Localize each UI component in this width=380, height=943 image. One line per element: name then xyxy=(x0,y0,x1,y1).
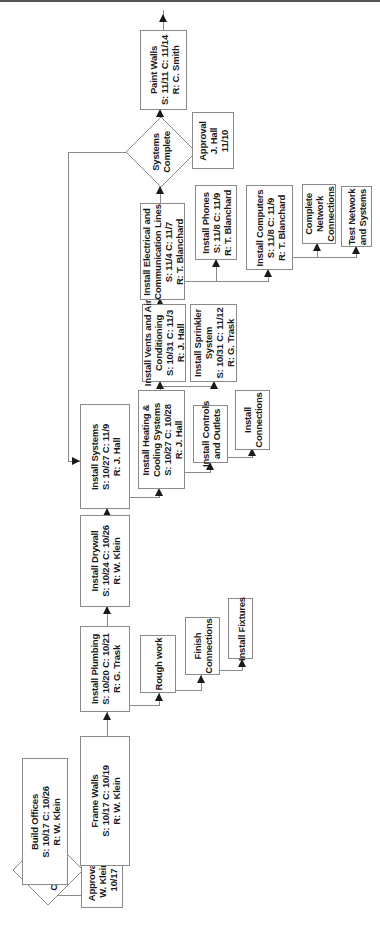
task-title: Install Systems xyxy=(89,423,100,489)
arrow-icon xyxy=(103,712,111,720)
connector xyxy=(185,281,269,282)
task-title: Connections xyxy=(203,618,214,673)
task-responsible: R: J. Hall xyxy=(175,300,186,386)
task-title: Install Computers xyxy=(253,189,264,266)
task-responsible: R: T. Blanchard xyxy=(174,204,185,299)
task-title: Finish xyxy=(192,618,203,673)
task-title: System xyxy=(203,307,214,378)
task-title: Install Phones xyxy=(200,189,211,255)
connector xyxy=(293,257,357,258)
task-title: Install xyxy=(242,392,253,447)
task-dates: S: 10/31 C: 11/12 xyxy=(214,307,225,378)
task-title: Complete xyxy=(303,186,314,241)
task-title: Install Sprinkler xyxy=(192,307,203,378)
task-dates: S: 11/8 C: 11/9 xyxy=(264,189,275,266)
task-responsible: R: C. Smith xyxy=(169,35,180,105)
approval-date: 11/10 xyxy=(219,121,230,161)
task-title: Install Electrical and xyxy=(141,204,152,299)
arrow-icon xyxy=(155,488,163,496)
task-title: Connections xyxy=(325,186,336,241)
connector xyxy=(130,497,160,498)
task-title: Connections xyxy=(253,392,264,447)
task-dates: S: 10/27 C: 10/28 xyxy=(162,402,173,476)
task-responsible: R: W. Klein xyxy=(51,786,62,858)
task-frame-walls: Frame Walls S: 10/17 C: 10/19 R: W. Klei… xyxy=(80,736,130,866)
connector xyxy=(160,386,215,387)
decision-label: Systems xyxy=(150,131,161,173)
task-title: Network xyxy=(314,186,325,241)
task-install-phones: Install Phones S: 11/8 C: 11/9 R: T. Bla… xyxy=(195,185,237,260)
arrow-icon xyxy=(103,606,111,614)
task-finish-connections: Finish Connections xyxy=(185,617,220,675)
task-responsible: R: G. Trask xyxy=(225,307,236,378)
task-install-systems: Install Systems S: 10/27 C: 11/9 R: J. H… xyxy=(80,404,130,509)
task-dates: S: 10/27 C: 11/9 xyxy=(100,423,111,489)
arrow-icon xyxy=(313,243,321,251)
decision-systems-complete: Systems Complete xyxy=(126,117,196,187)
task-dates: S: 10/17 C: 10/26 xyxy=(40,786,51,858)
task-title: and Systems xyxy=(357,188,368,245)
arrow-icon xyxy=(352,246,360,254)
arrow-icon xyxy=(156,109,164,117)
task-title: Install Plumbing xyxy=(89,633,100,705)
task-install-connections: Install Connections xyxy=(235,390,270,450)
task-rough-work: Rough work xyxy=(140,635,176,693)
connector xyxy=(228,457,253,458)
connector xyxy=(176,690,202,691)
decision-label: Complete xyxy=(161,131,172,173)
arrow-icon xyxy=(155,693,163,701)
task-install-sprinkler: Install Sprinkler System S: 10/31 C: 11/… xyxy=(190,304,237,382)
approval-systems: Approval J. Hall 11/10 xyxy=(192,112,234,169)
task-title: Install Vents and Air xyxy=(142,300,153,386)
task-responsible: R: J. Hall xyxy=(173,402,184,476)
connector xyxy=(220,670,243,671)
task-complete-network-connections: Complete Network Connections xyxy=(302,184,336,244)
arrow-icon xyxy=(210,381,218,389)
arrow-icon xyxy=(156,186,164,194)
task-install-electrical: Install Electrical and Communication Lin… xyxy=(140,203,185,300)
approval-name: J. Hall xyxy=(208,121,219,161)
task-title: Install Heating & xyxy=(140,402,151,476)
task-install-fixtures: Install Fixtures xyxy=(228,598,253,659)
task-title: Build Offices xyxy=(29,786,40,858)
task-title: Test Network xyxy=(346,188,357,245)
task-title: and Outlets xyxy=(211,401,222,467)
task-install-computers: Install Computers S: 11/8 C: 11/9 R: T. … xyxy=(246,185,293,270)
arrow-icon xyxy=(197,675,205,683)
task-responsible: R: T. Blanchard xyxy=(275,189,286,266)
task-test-network-systems: Test Network and Systems xyxy=(341,186,372,247)
task-responsible: R: G. Trask xyxy=(111,633,122,705)
task-title: Install Drywall xyxy=(89,525,100,597)
task-dates: S: 11/8 C: 11/9 xyxy=(211,189,222,255)
arrow-icon xyxy=(72,457,80,465)
arrow-icon xyxy=(264,269,272,277)
connector xyxy=(68,152,127,153)
task-dates: S: 10/17 C: 10/19 xyxy=(100,765,111,837)
task-install-vents-ac: Install Vents and Air Conditioning S: 10… xyxy=(142,304,186,382)
task-title: Frame Walls xyxy=(89,765,100,837)
task-paint-walls: Paint Walls S: 11/11 C: 11/14 R: C. Smit… xyxy=(140,30,187,110)
task-title: Communication Lines xyxy=(152,204,163,299)
task-install-controls-outlets: Install Controls and Outlets xyxy=(193,405,228,463)
connector xyxy=(185,472,211,473)
task-install-plumbing: Install Plumbing S: 10/20 C: 10/21 R: G.… xyxy=(80,626,130,712)
task-title: Paint Walls xyxy=(147,35,158,105)
task-responsible: R: W. Klein xyxy=(111,765,122,837)
task-responsible: R: J. Hall xyxy=(111,423,122,489)
task-title: Cooling Systems xyxy=(151,402,162,476)
connector xyxy=(130,705,160,706)
task-title: Install Fixtures xyxy=(235,597,246,661)
task-install-drywall: Install Drywall S: 10/24 C: 10/26 R: W. … xyxy=(80,515,130,607)
task-dates: S: 10/31 C: 11/3 xyxy=(164,300,175,386)
task-dates: S: 11/11 C: 11/14 xyxy=(158,35,169,105)
task-responsible: R: T. Blanchard xyxy=(222,189,233,255)
task-dates: S: 11/4 C: 11/7 xyxy=(163,204,174,299)
arrow-icon xyxy=(212,259,220,267)
approval-label: Approval xyxy=(197,121,208,161)
task-dates: S: 10/20 C: 10/21 xyxy=(100,633,111,705)
task-responsible: R: W. Klein xyxy=(111,525,122,597)
top-border xyxy=(0,0,380,2)
task-build-offices: Build Offices S: 10/17 C: 10/26 R: W. Kl… xyxy=(22,758,68,885)
task-install-heating-cooling: Install Heating & Cooling Systems S: 10/… xyxy=(138,390,185,489)
task-title: Install Controls xyxy=(200,401,211,467)
